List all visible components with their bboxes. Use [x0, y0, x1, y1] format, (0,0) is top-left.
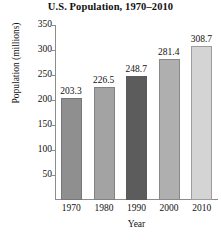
y-tick-label: 250 — [38, 69, 52, 79]
chart-title: U.S. Population, 1970–2010 — [0, 1, 221, 12]
y-tick-label: 350 — [38, 19, 52, 29]
bar-value-label: 248.7 — [116, 64, 156, 74]
bar[interactable] — [159, 59, 180, 200]
bar-slot: 281.4 — [153, 25, 186, 200]
bar[interactable] — [191, 46, 212, 200]
bar-value-label: 308.7 — [181, 34, 221, 44]
x-axis-title: Year — [55, 219, 218, 229]
y-tick-label: 50 — [43, 169, 53, 179]
bar-value-label: 281.4 — [149, 47, 189, 57]
bar-series: 203.3226.5248.7281.4308.7 — [55, 25, 218, 200]
bar-slot: 203.3 — [55, 25, 88, 200]
y-tick-label: 100 — [38, 144, 52, 154]
y-tick-label: 200 — [38, 94, 52, 104]
bar-value-label: 203.3 — [51, 86, 91, 96]
y-tick-label: 150 — [38, 119, 52, 129]
y-tick-label: 300 — [38, 44, 52, 54]
bar-slot: 308.7 — [185, 25, 218, 200]
chart-figure: U.S. Population, 1970–2010 Population (m… — [0, 0, 221, 240]
bar-slot: 226.5 — [88, 25, 121, 200]
x-tick-label: 2010 — [182, 203, 221, 213]
bar[interactable] — [94, 87, 115, 200]
bar[interactable] — [126, 76, 147, 200]
bar[interactable] — [61, 98, 82, 200]
bar-value-label: 226.5 — [84, 75, 124, 85]
y-axis-title: Population (millions) — [11, 0, 21, 133]
